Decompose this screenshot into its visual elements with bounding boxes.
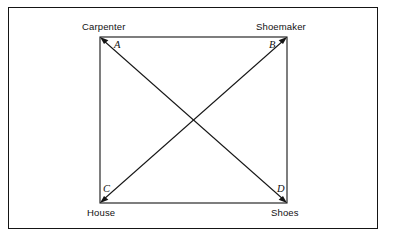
node-label-shoes: Shoes xyxy=(271,207,299,218)
node-label-house: House xyxy=(87,207,115,218)
vertex-letter-d: D xyxy=(277,183,285,194)
vertex-letter-c: C xyxy=(103,183,110,194)
node-label-carpenter: Carpenter xyxy=(82,21,126,32)
figure-root: Carpenter Shoemaker House Shoes A B C D xyxy=(0,0,394,245)
node-label-shoemaker: Shoemaker xyxy=(256,21,306,32)
vertex-letter-b: B xyxy=(269,39,275,50)
vertex-letter-a: A xyxy=(114,39,120,50)
diagram-canvas xyxy=(0,0,394,245)
